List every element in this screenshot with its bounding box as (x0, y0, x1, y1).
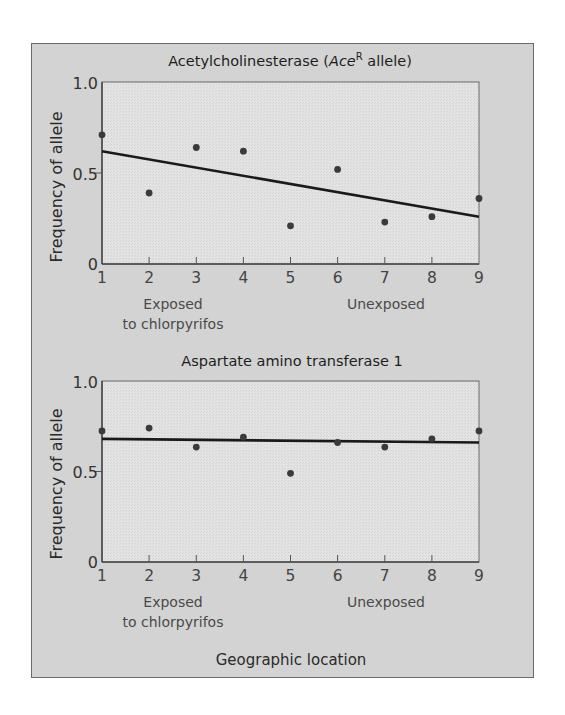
svg-text:4: 4 (238, 269, 248, 287)
svg-text:5: 5 (286, 567, 296, 585)
svg-text:3: 3 (191, 269, 201, 287)
y-ticks: 1.0 0.5 0 (73, 373, 102, 572)
chart-title: Acetylcholinesterase (AceR allele) (168, 51, 412, 69)
svg-text:7: 7 (380, 269, 390, 287)
y-tick-label: 0.5 (73, 165, 98, 184)
svg-text:1: 1 (97, 269, 107, 287)
x-tick-labels: 1 2 3 4 5 6 7 8 9 (97, 567, 484, 585)
group-label-unexposed: Unexposed (347, 296, 425, 312)
y-tick-label: 1.0 (73, 74, 98, 93)
group-label-exposed: Exposed (143, 594, 202, 610)
svg-text:8: 8 (427, 269, 437, 287)
svg-text:8: 8 (427, 567, 437, 585)
chart-title: Aspartate amino transferase 1 (181, 353, 402, 369)
group-label-exposed: Exposed (143, 296, 202, 312)
svg-text:3: 3 (191, 567, 201, 585)
svg-text:5: 5 (286, 269, 296, 287)
x-tick-labels: 1 2 3 4 5 6 7 8 9 (97, 269, 484, 287)
y-tick-label: 1.0 (73, 373, 98, 392)
chart-acetylcholinesterase: Acetylcholinesterase (AceR allele) 1.0 0… (47, 51, 484, 332)
y-axis-label: Frequency of allele (47, 408, 66, 559)
y-ticks: 1.0 0.5 0 (73, 74, 102, 274)
plot-area (102, 82, 479, 264)
svg-text:9: 9 (474, 567, 484, 585)
x-axis-label: Geographic location (216, 651, 367, 669)
group-label-unexposed: Unexposed (347, 594, 425, 610)
svg-text:6: 6 (333, 269, 343, 287)
svg-text:2: 2 (144, 567, 154, 585)
group-label-exposed-line2: to chlorpyrifos (123, 316, 224, 332)
figure-svg: Acetylcholinesterase (AceR allele) 1.0 0… (0, 0, 565, 715)
svg-text:6: 6 (333, 567, 343, 585)
chart-aspartate-amino-transferase: Aspartate amino transferase 1 1.0 0.5 0 … (47, 353, 484, 669)
svg-text:2: 2 (144, 269, 154, 287)
y-axis-label: Frequency of allele (47, 111, 66, 262)
y-tick-label: 0.5 (73, 463, 98, 482)
svg-text:7: 7 (380, 567, 390, 585)
svg-text:4: 4 (238, 567, 248, 585)
group-label-exposed-line2: to chlorpyrifos (123, 614, 224, 630)
svg-text:9: 9 (474, 269, 484, 287)
svg-text:1: 1 (97, 567, 107, 585)
